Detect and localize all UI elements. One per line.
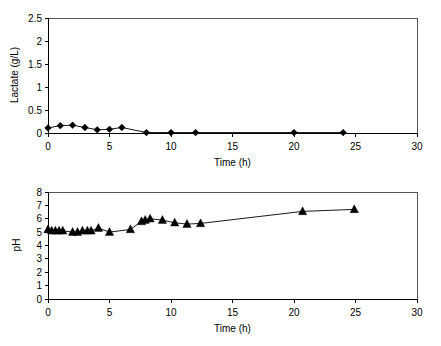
data-point-marker <box>69 122 76 129</box>
data-point-marker <box>106 126 113 133</box>
y-tick-label: 0 <box>36 128 42 139</box>
x-tick-label: 5 <box>107 307 113 318</box>
y-tick-label: 7 <box>36 200 42 211</box>
data-point-marker <box>94 126 101 133</box>
y-tick-label: 1 <box>36 82 42 93</box>
data-point-marker <box>291 129 298 136</box>
x-tick-label: 20 <box>288 141 300 152</box>
y-tick-label: 2 <box>36 267 42 278</box>
data-point-marker <box>126 225 134 233</box>
plot-frame <box>48 192 417 299</box>
data-point-marker <box>94 224 102 232</box>
y-tick-label: 0 <box>36 294 42 305</box>
data-point-marker <box>168 129 175 136</box>
y-axis-title: Lactate (g/L) <box>9 47 20 103</box>
x-tick-label: 25 <box>350 307 362 318</box>
figure-container: 00.511.522.5051015202530Time (h)Lactate … <box>0 0 441 346</box>
data-point-marker <box>192 129 199 136</box>
data-point-marker <box>57 122 64 129</box>
data-point-marker <box>45 125 52 132</box>
data-point-marker <box>143 129 150 136</box>
x-axis-title: Time (h) <box>214 323 251 334</box>
x-tick-label: 25 <box>350 141 362 152</box>
y-tick-label: 5 <box>36 227 42 238</box>
y-tick-label: 3 <box>36 253 42 264</box>
data-point-marker <box>350 205 358 213</box>
x-tick-label: 10 <box>165 141 177 152</box>
x-tick-label: 15 <box>227 307 239 318</box>
y-tick-label: 6 <box>36 213 42 224</box>
x-tick-label: 0 <box>45 307 51 318</box>
y-tick-label: 1.5 <box>28 59 42 70</box>
x-axis-title: Time (h) <box>214 157 251 168</box>
x-tick-label: 15 <box>227 141 239 152</box>
y-tick-label: 4 <box>36 240 42 251</box>
y-axis-title: pH <box>11 239 22 252</box>
data-point-marker <box>82 124 89 131</box>
data-point-marker <box>298 207 306 215</box>
data-point-marker <box>340 129 347 136</box>
chart-panel-lactate: 00.511.522.5051015202530Time (h)Lactate … <box>0 0 441 175</box>
x-tick-label: 20 <box>288 307 300 318</box>
x-tick-label: 0 <box>45 141 51 152</box>
lactate-plot: 00.511.522.5051015202530Time (h)Lactate … <box>0 0 441 175</box>
x-tick-label: 30 <box>411 307 423 318</box>
x-tick-label: 10 <box>165 307 177 318</box>
y-tick-label: 8 <box>36 187 42 198</box>
x-tick-label: 5 <box>107 141 113 152</box>
y-tick-label: 1 <box>36 280 42 291</box>
plot-frame <box>48 18 417 133</box>
data-point-marker <box>118 124 125 131</box>
x-tick-label: 30 <box>411 141 423 152</box>
y-tick-label: 2.5 <box>28 13 42 24</box>
data-point-marker <box>146 214 154 222</box>
y-tick-label: 0.5 <box>28 105 42 116</box>
ph-plot: 012345678051015202530Time (h)pH <box>0 175 441 346</box>
y-tick-label: 2 <box>36 36 42 47</box>
chart-panel-ph: 012345678051015202530Time (h)pH <box>0 175 441 346</box>
